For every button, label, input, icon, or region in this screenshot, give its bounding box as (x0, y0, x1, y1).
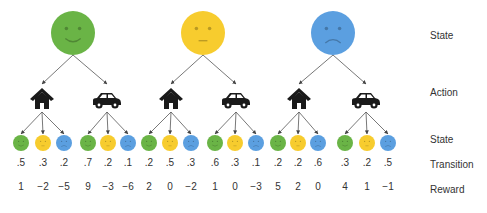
transition-probability: .7 (84, 157, 92, 168)
label-state-bottom: State (430, 134, 453, 145)
reward-value: 5 (275, 181, 281, 192)
next-state-face-yellow (359, 135, 375, 151)
transition-probability: .2 (104, 157, 112, 168)
next-state-face-blue (248, 135, 264, 151)
next-state-face-blue (183, 135, 199, 151)
house-icon (159, 88, 183, 109)
reward-value: −2 (185, 181, 196, 192)
next-state-face-yellow (35, 135, 51, 151)
next-state-face-green (270, 135, 286, 151)
next-state-face-green (207, 135, 223, 151)
reward-value: 0 (232, 181, 238, 192)
next-state-face-yellow (290, 135, 306, 151)
next-state-face-blue (120, 135, 136, 151)
reward-value: 2 (146, 181, 152, 192)
house-icon (30, 88, 54, 109)
next-state-face-green (80, 135, 96, 151)
reward-value: −3 (102, 181, 113, 192)
reward-value: −5 (58, 181, 69, 192)
house-icon (287, 88, 311, 109)
mdp-diagram (0, 0, 487, 213)
next-state-face-yellow (162, 135, 178, 151)
reward-value: 2 (295, 181, 301, 192)
reward-value: −2 (37, 181, 48, 192)
transition-probability: .2 (145, 157, 153, 168)
transition-probability: .5 (384, 157, 392, 168)
state-face-blue (311, 11, 355, 55)
reward-value: −6 (122, 181, 133, 192)
label-transition: Transition (430, 159, 474, 170)
reward-value: 1 (212, 181, 218, 192)
transition-probability: .3 (231, 157, 239, 168)
transition-probability: .2 (60, 157, 68, 168)
reward-value: 1 (18, 181, 24, 192)
transition-probability: .3 (341, 157, 349, 168)
transition-probability: .5 (17, 157, 25, 168)
next-state-face-green (141, 135, 157, 151)
reward-value: −3 (250, 181, 261, 192)
label-reward: Reward (430, 184, 464, 195)
next-state-face-blue (56, 135, 72, 151)
reward-value: 9 (85, 181, 91, 192)
label-state-top: State (430, 30, 453, 41)
next-state-face-yellow (227, 135, 243, 151)
reward-value: 1 (364, 181, 370, 192)
transition-probability: .6 (314, 157, 322, 168)
transition-probability: .1 (252, 157, 260, 168)
car-icon (352, 93, 380, 109)
car-icon (222, 93, 250, 109)
transition-probability: .5 (166, 157, 174, 168)
reward-value: 0 (167, 181, 173, 192)
next-state-face-green (13, 135, 29, 151)
reward-value: 4 (342, 181, 348, 192)
next-state-face-blue (380, 135, 396, 151)
car-icon (93, 93, 121, 109)
transition-probability: .2 (294, 157, 302, 168)
state-face-yellow (181, 11, 225, 55)
transition-probability: .6 (211, 157, 219, 168)
transition-probability: .3 (187, 157, 195, 168)
transition-probability: .2 (363, 157, 371, 168)
next-state-face-yellow (100, 135, 116, 151)
label-action: Action (430, 87, 458, 98)
next-state-face-green (337, 135, 353, 151)
transition-probability: .3 (39, 157, 47, 168)
transition-probability: .2 (274, 157, 282, 168)
reward-value: 0 (315, 181, 321, 192)
next-state-face-blue (310, 135, 326, 151)
reward-value: −1 (382, 181, 393, 192)
transition-probability: .1 (124, 157, 132, 168)
state-face-green (51, 11, 95, 55)
